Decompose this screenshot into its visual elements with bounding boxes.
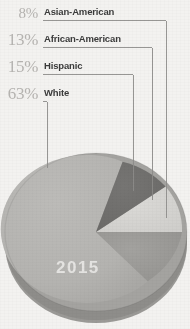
chart-root: 8% Asian-American 13% African-American 1… <box>0 0 190 329</box>
leader-line-african-american <box>43 48 152 201</box>
leader-line-asian-american <box>43 21 166 219</box>
leader-line-hispanic <box>43 75 133 192</box>
leader-line-white <box>43 102 47 169</box>
leader-lines <box>0 0 190 329</box>
